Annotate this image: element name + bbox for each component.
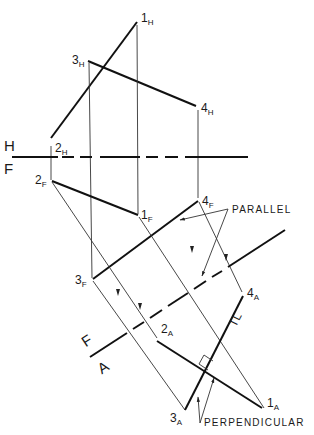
line-3h-4h — [88, 61, 196, 106]
front-view — [52, 181, 198, 279]
top-view — [51, 22, 196, 138]
point-label-3h: 3H — [72, 53, 85, 69]
svg-text:4F: 4F — [202, 194, 214, 210]
svg-text:1H: 1H — [141, 11, 154, 27]
point-label-1f: 1F — [141, 208, 153, 224]
label-fa-f: F — [78, 331, 95, 350]
point-label-2h: 2H — [55, 141, 68, 157]
svg-text:4H: 4H — [201, 101, 214, 117]
annotation-perpendicular: PERPENDICULAR — [204, 417, 305, 428]
auxiliary-view-diagram: H F F A 1H 3H 4H 2H 2F 1F 4F 3F 2A 4A 1A… — [0, 0, 314, 435]
svg-text:1F: 1F — [141, 208, 153, 224]
line-1h-2h — [51, 22, 137, 138]
annotation-parallel: PARALLEL — [232, 204, 291, 215]
line-2f-1f — [52, 181, 138, 215]
point-label-2a: 2A — [161, 322, 174, 338]
svg-text:4A: 4A — [247, 286, 260, 302]
label-f: F — [4, 160, 13, 177]
svg-text:2A: 2A — [161, 322, 174, 338]
point-label-1h: 1H — [141, 11, 154, 27]
point-label-3a: 3A — [170, 411, 183, 427]
line-2a-1a — [157, 341, 262, 408]
label-fa-a: A — [94, 357, 112, 377]
point-label-4f: 4F — [202, 194, 214, 210]
point-label-4a: 4A — [247, 286, 260, 302]
point-label-3f: 3F — [75, 273, 87, 289]
svg-text:3F: 3F — [75, 273, 87, 289]
svg-text:2H: 2H — [55, 141, 68, 157]
label-h: H — [4, 137, 15, 154]
svg-text:2F: 2F — [35, 173, 47, 189]
svg-text:3H: 3H — [72, 53, 85, 69]
parallel-leaders — [180, 209, 228, 276]
svg-text:3A: 3A — [170, 411, 183, 427]
point-label-2f: 2F — [35, 173, 47, 189]
point-label-1a: 1A — [267, 396, 280, 412]
point-label-4h: 4H — [201, 101, 214, 117]
svg-text:1A: 1A — [267, 396, 280, 412]
projection-lines-fa — [52, 182, 264, 410]
